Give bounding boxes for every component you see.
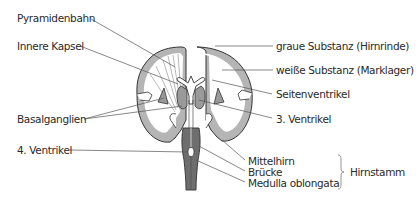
label-basalganglien: Basalganglien	[17, 113, 86, 125]
brace-icon	[336, 154, 346, 190]
label-hirnstamm: Hirnstamm	[350, 166, 405, 178]
label-medulla-oblongata: Medulla oblongata	[248, 177, 339, 189]
label-4-ventrikel: 4. Ventrikel	[17, 144, 72, 156]
label-pyramidenbahn: Pyramidenbahn	[17, 12, 95, 24]
brainstem	[182, 128, 200, 190]
fourth-ventricle	[188, 148, 194, 157]
thalamus-right	[195, 86, 205, 109]
label-innere-kapsel: Innere Kapsel	[17, 40, 84, 52]
label-3-ventrikel: 3. Ventrikel	[276, 113, 331, 125]
label-graue-substanz: graue Substanz (Hirnrinde)	[276, 40, 409, 52]
label-seitenventrikel: Seitenventrikel	[276, 88, 350, 100]
label-weisse-substanz: weiße Substanz (Marklager)	[276, 64, 414, 76]
thalamus-left	[177, 86, 187, 109]
